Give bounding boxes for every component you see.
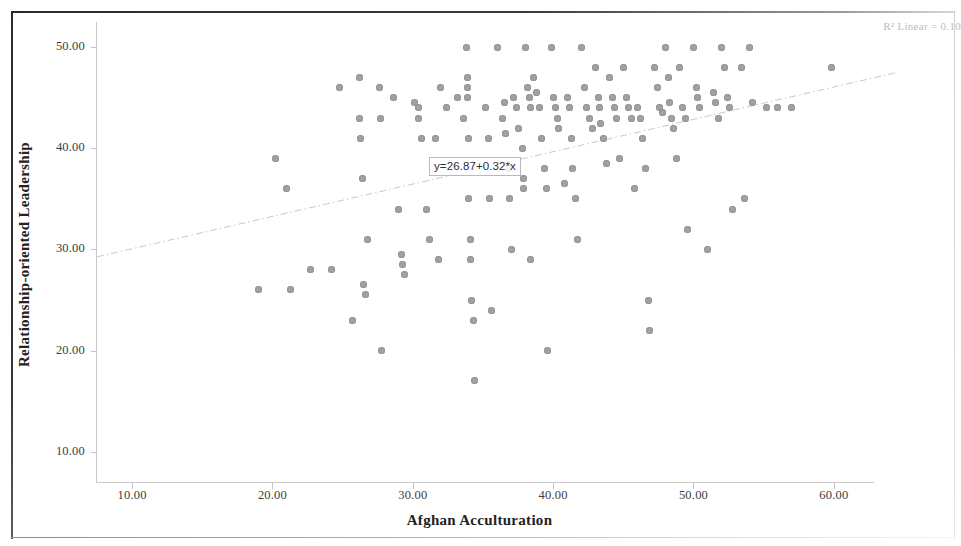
- data-point: [738, 64, 745, 71]
- data-point: [600, 135, 607, 142]
- data-point: [467, 256, 474, 263]
- data-point: [510, 94, 517, 101]
- data-point: [395, 206, 402, 213]
- data-point: [360, 281, 367, 288]
- data-point: [463, 44, 470, 51]
- data-point: [646, 327, 653, 334]
- data-point: [596, 104, 603, 111]
- data-point: [569, 165, 576, 172]
- x-tick-label: 10.00: [97, 488, 167, 503]
- x-tick-label: 30.00: [378, 488, 448, 503]
- data-point: [581, 84, 588, 91]
- data-point: [362, 291, 369, 298]
- x-tick-mark: [413, 483, 414, 489]
- data-point: [543, 185, 550, 192]
- data-point: [471, 377, 478, 384]
- x-axis-title: Afghan Acculturation: [0, 512, 959, 529]
- data-point: [566, 104, 573, 111]
- data-point: [746, 44, 753, 51]
- data-point: [520, 175, 527, 182]
- data-point: [550, 94, 557, 101]
- y-tick-label: 30.00: [25, 241, 85, 256]
- data-point: [666, 99, 673, 106]
- x-tick-mark: [693, 483, 694, 489]
- data-point: [603, 160, 610, 167]
- data-point: [574, 236, 581, 243]
- data-point: [654, 84, 661, 91]
- data-point: [726, 104, 733, 111]
- data-point: [502, 130, 509, 137]
- x-tick-mark: [132, 483, 133, 489]
- data-point: [592, 64, 599, 71]
- data-point: [506, 195, 513, 202]
- x-tick-label: 50.00: [658, 488, 728, 503]
- figure-border-bottom: [11, 537, 955, 538]
- data-point: [530, 74, 537, 81]
- regression-equation-label: y=26.87+0.32*x: [429, 157, 521, 176]
- data-point: [595, 94, 602, 101]
- data-point: [486, 195, 493, 202]
- data-point: [564, 94, 571, 101]
- data-point: [589, 125, 596, 132]
- data-point: [415, 104, 422, 111]
- data-point: [541, 165, 548, 172]
- data-point: [628, 115, 635, 122]
- data-point: [418, 135, 425, 142]
- figure-border-right: [954, 11, 955, 539]
- data-point: [520, 185, 527, 192]
- data-point: [729, 206, 736, 213]
- data-point: [399, 261, 406, 268]
- data-point: [611, 104, 618, 111]
- data-point: [515, 125, 522, 132]
- data-point: [676, 64, 683, 71]
- data-point: [499, 115, 506, 122]
- data-point: [378, 347, 385, 354]
- y-tick-label: 10.00: [25, 444, 85, 459]
- data-point: [554, 115, 561, 122]
- data-point: [613, 115, 620, 122]
- data-point: [283, 185, 290, 192]
- data-point: [538, 135, 545, 142]
- x-tick-label: 60.00: [799, 488, 869, 503]
- data-point: [679, 104, 686, 111]
- x-tick-mark: [272, 483, 273, 489]
- data-point: [623, 94, 630, 101]
- data-point: [443, 104, 450, 111]
- data-point: [609, 94, 616, 101]
- data-point: [606, 74, 613, 81]
- y-tick-label: 20.00: [25, 343, 85, 358]
- data-point: [364, 236, 371, 243]
- data-point: [763, 104, 770, 111]
- y-tick-label: 50.00: [25, 39, 85, 54]
- data-point: [637, 115, 644, 122]
- data-point: [467, 236, 474, 243]
- regression-fit-line: [97, 22, 897, 482]
- data-point: [465, 135, 472, 142]
- data-point: [631, 185, 638, 192]
- data-point: [526, 94, 533, 101]
- data-point: [561, 180, 568, 187]
- data-point: [694, 94, 701, 101]
- data-point: [555, 125, 562, 132]
- data-point: [583, 104, 590, 111]
- data-point: [659, 109, 666, 116]
- data-point: [828, 64, 835, 71]
- data-point: [533, 89, 540, 96]
- data-point: [435, 256, 442, 263]
- data-point: [642, 165, 649, 172]
- data-point: [390, 94, 397, 101]
- data-point: [468, 297, 475, 304]
- data-point: [552, 104, 559, 111]
- data-point: [287, 286, 294, 293]
- data-point: [357, 135, 364, 142]
- data-point: [432, 135, 439, 142]
- y-tick-label: 40.00: [25, 140, 85, 155]
- data-point: [415, 115, 422, 122]
- x-tick-label: 20.00: [237, 488, 307, 503]
- data-point: [494, 44, 501, 51]
- data-point: [423, 206, 430, 213]
- data-point: [620, 64, 627, 71]
- data-point: [527, 104, 534, 111]
- data-point: [597, 120, 604, 127]
